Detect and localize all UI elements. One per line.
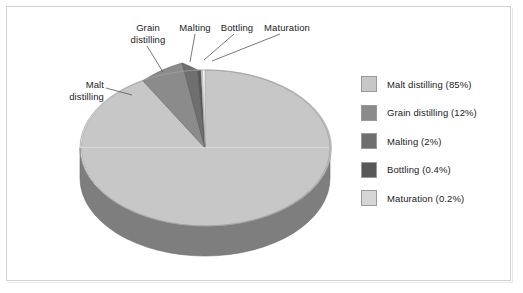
callout-grain-distilling: Grain distilling [120, 22, 176, 45]
legend-item-malt-distilling[interactable]: Malt distilling (85%) [361, 70, 511, 99]
leader-line-grain-distilling [147, 46, 163, 72]
legend-label-maturation: Maturation (0.2%) [387, 193, 464, 204]
chart-legend: Malt distilling (85%) Grain distilling (… [361, 70, 511, 213]
legend-label-grain-distilling: Grain distilling (12%) [387, 107, 477, 118]
leader-line-bottling [204, 34, 234, 60]
legend-item-maturation[interactable]: Maturation (0.2%) [361, 184, 511, 213]
legend-item-bottling[interactable]: Bottling (0.4%) [361, 156, 511, 185]
pie-top-face [80, 63, 331, 226]
legend-swatch-bottling [361, 162, 377, 178]
legend-label-malt-distilling: Malt distilling (85%) [387, 79, 471, 90]
legend-swatch-grain-distilling [361, 105, 377, 121]
legend-label-malting: Malting (2%) [387, 136, 442, 147]
chart-canvas: Malt distilling Grain distilling Malting… [0, 0, 523, 293]
callout-grain-distilling-line1: Grain [120, 22, 176, 34]
callout-grain-distilling-line2: distilling [120, 34, 176, 46]
callout-maturation: Maturation [258, 22, 316, 34]
leader-line-malting [190, 34, 195, 62]
legend-swatch-malt-distilling [361, 76, 377, 92]
legend-swatch-maturation [361, 190, 377, 206]
legend-swatch-malting [361, 133, 377, 149]
callout-malt-distilling-line2: distilling [42, 91, 104, 103]
callout-bottling: Bottling [215, 22, 259, 34]
legend-item-grain-distilling[interactable]: Grain distilling (12%) [361, 99, 511, 128]
legend-item-malting[interactable]: Malting (2%) [361, 127, 511, 156]
callout-malt-distilling: Malt distilling [42, 79, 104, 102]
callout-malting: Malting [174, 22, 216, 34]
legend-label-bottling: Bottling (0.4%) [387, 164, 451, 175]
callout-malt-distilling-line1: Malt [42, 79, 104, 91]
leader-line-maturation [212, 34, 280, 61]
